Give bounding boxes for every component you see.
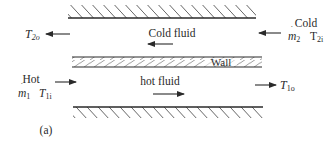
heat-exchanger-diagram: Wall Cold fluid hot fluid T2o Cold m2 · … (0, 0, 335, 151)
cold-outlet-temp: T2o (25, 27, 40, 42)
hot-outlet-temp: T1o (280, 78, 295, 93)
hot-inlet-temp: T1i (39, 87, 52, 101)
cold-outlet: T2o (25, 27, 70, 42)
hot-outlet: T1o (255, 78, 295, 93)
bottom-wall-hatching (73, 107, 263, 118)
hot-mass-flow: m1 (18, 87, 30, 101)
mass-flow-dot: · (21, 79, 24, 88)
hot-fluid-label: hot fluid (140, 75, 180, 87)
wall-label: Wall (211, 56, 232, 68)
separating-wall: Wall (72, 56, 262, 68)
mass-flow-dot: · (291, 22, 294, 31)
cold-inlet-temp: T2i (310, 30, 324, 44)
hot-inlet: Hot m1 · T1i (18, 73, 76, 101)
top-wall-hatching (68, 5, 256, 18)
figure-caption: (a) (40, 124, 53, 137)
cold-inlet-label: Cold (295, 17, 318, 29)
cold-fluid-label: Cold fluid (149, 27, 196, 39)
cold-mass-flow: m2 (288, 30, 300, 44)
bottom-outer-wall (73, 107, 263, 118)
hot-inlet-label: Hot (22, 73, 40, 85)
top-outer-wall (68, 5, 256, 18)
cold-inlet: Cold m2 · T2i (259, 17, 324, 44)
